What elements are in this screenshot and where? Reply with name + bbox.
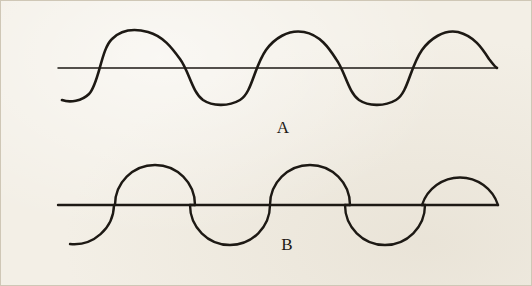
panel-label-b: B	[281, 235, 292, 254]
panel-label-a: A	[277, 118, 290, 137]
lower-arc-b-1	[70, 205, 114, 244]
lower-arc-b-2	[190, 205, 270, 245]
panel-b: B	[58, 165, 498, 254]
lower-arc-b-3	[345, 205, 425, 245]
upper-arc-b-3	[422, 177, 498, 205]
upper-arc-b-2	[270, 165, 350, 205]
panel-a: A	[58, 30, 497, 137]
figure-page: A B	[0, 0, 532, 286]
waveform-figure: A B	[0, 0, 532, 286]
upper-arc-b-1	[115, 165, 195, 205]
